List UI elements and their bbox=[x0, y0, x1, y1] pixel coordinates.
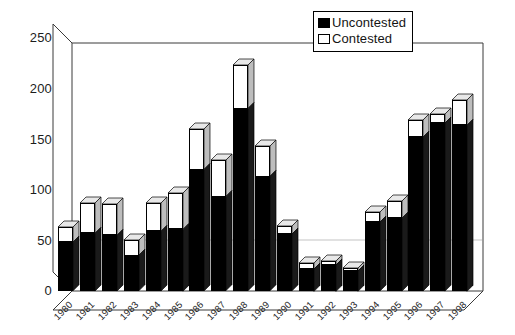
bar-1995[interactable] bbox=[387, 201, 402, 291]
bar-front-1987 bbox=[211, 160, 226, 291]
bar-front-1984 bbox=[146, 203, 161, 291]
segment-uncontested-1986 bbox=[190, 169, 203, 290]
x-tick-1983: 1983 bbox=[118, 299, 141, 322]
segment-uncontested-1980 bbox=[59, 241, 72, 290]
legend-label-contested: Contested bbox=[332, 32, 392, 46]
segment-uncontested-1987 bbox=[212, 196, 225, 290]
segment-contested-1984 bbox=[147, 204, 160, 232]
bar-1987[interactable] bbox=[211, 160, 226, 291]
x-tick-1991: 1991 bbox=[293, 299, 316, 322]
segment-uncontested-1991 bbox=[300, 268, 313, 290]
segment-uncontested-1992 bbox=[322, 264, 335, 290]
segment-contested-1985 bbox=[169, 194, 182, 230]
bar-front-1983 bbox=[124, 240, 139, 291]
legend: Uncontested Contested bbox=[313, 11, 413, 52]
bar-chart: 250 200 150 100 50 0 1980198119821983198… bbox=[0, 0, 515, 335]
bar-1980[interactable] bbox=[58, 227, 73, 291]
bar-front-1991 bbox=[299, 263, 314, 291]
legend-item-contested: Contested bbox=[318, 31, 406, 47]
bar-1982[interactable] bbox=[102, 204, 117, 291]
segment-uncontested-1983 bbox=[125, 255, 138, 290]
segment-uncontested-1989 bbox=[256, 176, 269, 290]
x-tick-1987: 1987 bbox=[205, 299, 228, 322]
legend-label-uncontested: Uncontested bbox=[332, 16, 406, 30]
bar-1981[interactable] bbox=[80, 203, 95, 291]
bar-front-1988 bbox=[233, 65, 248, 291]
segment-uncontested-1990 bbox=[278, 233, 291, 290]
segment-contested-1989 bbox=[256, 147, 269, 177]
segment-contested-1982 bbox=[103, 205, 116, 236]
x-tick-1986: 1986 bbox=[183, 299, 206, 322]
bar-front-1980 bbox=[58, 227, 73, 291]
bar-front-1985 bbox=[168, 193, 183, 291]
segment-uncontested-1997 bbox=[431, 122, 444, 290]
segment-uncontested-1994 bbox=[366, 221, 379, 290]
bar-1986[interactable] bbox=[189, 129, 204, 291]
bar-1993[interactable] bbox=[343, 268, 358, 291]
segment-uncontested-1996 bbox=[409, 136, 422, 290]
segment-contested-1988 bbox=[234, 66, 247, 110]
bar-1983[interactable] bbox=[124, 240, 139, 291]
bar-front-1992 bbox=[321, 261, 336, 291]
segment-uncontested-1981 bbox=[81, 232, 94, 290]
bar-1997[interactable] bbox=[430, 114, 445, 291]
segment-uncontested-1988 bbox=[234, 108, 247, 290]
bar-front-1995 bbox=[387, 201, 402, 291]
segment-contested-1981 bbox=[81, 204, 94, 234]
bar-1989[interactable] bbox=[255, 146, 270, 291]
legend-swatch-uncontested bbox=[318, 18, 330, 28]
bar-front-1989 bbox=[255, 146, 270, 291]
x-tick-1994: 1994 bbox=[359, 299, 382, 322]
bar-1988[interactable] bbox=[233, 65, 248, 291]
x-tick-1985: 1985 bbox=[162, 299, 185, 322]
plot-area: 1980198119821983198419851986198719881989… bbox=[0, 0, 515, 335]
bar-front-1997 bbox=[430, 114, 445, 291]
x-tick-1997: 1997 bbox=[424, 299, 447, 322]
segment-uncontested-1995 bbox=[388, 217, 401, 290]
bar-front-1981 bbox=[80, 203, 95, 291]
x-tick-1996: 1996 bbox=[402, 299, 425, 322]
x-tick-1982: 1982 bbox=[96, 299, 119, 322]
bar-front-1982 bbox=[102, 204, 117, 291]
bar-1990[interactable] bbox=[277, 226, 292, 291]
segment-uncontested-1985 bbox=[169, 228, 182, 290]
segment-contested-1986 bbox=[190, 130, 203, 170]
x-tick-1989: 1989 bbox=[249, 299, 272, 322]
segment-uncontested-1982 bbox=[103, 234, 116, 290]
segment-uncontested-1993 bbox=[344, 270, 357, 290]
x-tick-1984: 1984 bbox=[140, 299, 163, 322]
segment-contested-1998 bbox=[453, 101, 466, 126]
bar-front-1986 bbox=[189, 129, 204, 291]
bar-front-1994 bbox=[365, 212, 380, 291]
bar-1992[interactable] bbox=[321, 261, 336, 291]
x-tick-1995: 1995 bbox=[381, 299, 404, 322]
segment-uncontested-1998 bbox=[453, 124, 466, 290]
x-tick-1998: 1998 bbox=[446, 299, 469, 322]
x-tick-1990: 1990 bbox=[271, 299, 294, 322]
bar-front-1993 bbox=[343, 268, 358, 291]
x-tick-1993: 1993 bbox=[337, 299, 360, 322]
x-tick-1992: 1992 bbox=[315, 299, 338, 322]
bar-1994[interactable] bbox=[365, 212, 380, 291]
bar-1996[interactable] bbox=[408, 120, 423, 291]
segment-contested-1987 bbox=[212, 161, 225, 197]
x-tick-1981: 1981 bbox=[74, 299, 97, 322]
bar-1991[interactable] bbox=[299, 263, 314, 291]
segment-uncontested-1984 bbox=[147, 230, 160, 290]
bar-1998[interactable] bbox=[452, 100, 467, 291]
bar-1985[interactable] bbox=[168, 193, 183, 291]
x-tick-1980: 1980 bbox=[52, 299, 75, 322]
bar-front-1998 bbox=[452, 100, 467, 291]
x-tick-1988: 1988 bbox=[227, 299, 250, 322]
bar-1984[interactable] bbox=[146, 203, 161, 291]
bar-front-1996 bbox=[408, 120, 423, 291]
legend-swatch-contested bbox=[318, 34, 330, 44]
bar-front-1990 bbox=[277, 226, 292, 291]
legend-item-uncontested: Uncontested bbox=[318, 15, 406, 31]
